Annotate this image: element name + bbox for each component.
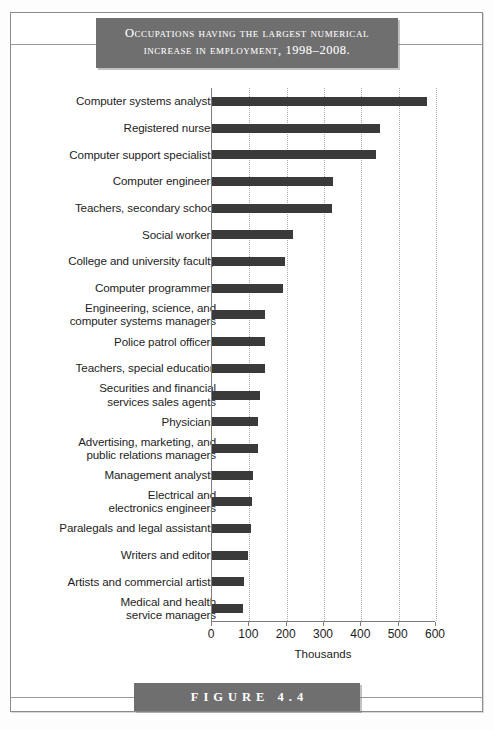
category-label-line: Computer engineers [20, 174, 216, 187]
bar [212, 284, 283, 293]
category-label-line: Advertising, marketing, and [20, 435, 216, 448]
category-label-line: Electrical and [20, 488, 216, 501]
x-axis-tick-label: 300 [313, 627, 333, 641]
category-label-line: College and university faculty [20, 254, 216, 267]
category-label: Teachers, secondary school [20, 201, 216, 214]
x-axis-tick-label: 500 [388, 627, 408, 641]
category-label: Electrical andelectronics engineers [20, 488, 216, 514]
category-label: Paralegals and legal assistants [20, 521, 216, 534]
x-axis-tick [248, 622, 249, 626]
x-axis-title: Thousands [211, 648, 435, 660]
gridline [399, 88, 400, 621]
category-label-line: Artists and commercial artists [20, 575, 216, 588]
category-label-line: Engineering, science, and [20, 301, 216, 314]
category-label: Registered nurses [20, 121, 216, 134]
bar [212, 417, 258, 426]
x-axis-tick-label: 100 [238, 627, 258, 641]
category-label: Advertising, marketing, andpublic relati… [20, 435, 216, 461]
category-label-line: computer systems managers [20, 314, 216, 327]
bar [212, 577, 244, 586]
category-label-line: Social workers [20, 228, 216, 241]
category-label-line: Physicians [20, 415, 216, 428]
category-label: Computer programmers [20, 281, 216, 294]
category-label: Medical and healthservice managers [20, 595, 216, 621]
category-label-line: Computer support specialists [20, 148, 216, 161]
category-label-line: service managers [20, 608, 216, 621]
bar [212, 204, 332, 213]
x-axis-tick [323, 622, 324, 626]
category-label: Management analysts [20, 468, 216, 481]
category-label-line: Teachers, special education [20, 361, 216, 374]
category-label: Writers and editors [20, 548, 216, 561]
x-axis-tick [286, 622, 287, 626]
category-label: Police patrol officers [20, 335, 216, 348]
category-label: Artists and commercial artists [20, 575, 216, 588]
category-label-line: Securities and financial [20, 381, 216, 394]
category-label-line: Registered nurses [20, 121, 216, 134]
x-axis-tick [360, 622, 361, 626]
bar [212, 551, 248, 560]
gridline [249, 88, 250, 621]
bar-chart: Computer systems analystsRegistered nurs… [0, 0, 473, 700]
bar [212, 310, 265, 319]
x-axis-tick-label: 200 [276, 627, 296, 641]
category-label: Computer support specialists [20, 148, 216, 161]
category-label-line: Management analysts [20, 468, 216, 481]
plot-area [211, 88, 435, 622]
category-label-line: Computer programmers [20, 281, 216, 294]
category-label: Engineering, science, andcomputer system… [20, 301, 216, 327]
figure-caption-plaque: FIGURE 4.4 [134, 683, 360, 711]
category-label-line: public relations managers [20, 448, 216, 461]
gridline [436, 88, 437, 621]
category-label-line: Teachers, secondary school [20, 201, 216, 214]
bar [212, 471, 253, 480]
category-label-line: Writers and editors [20, 548, 216, 561]
bar [212, 230, 293, 239]
bar [212, 257, 285, 266]
bar [212, 177, 333, 186]
bar [212, 150, 376, 159]
bar [212, 604, 243, 613]
bar [212, 391, 260, 400]
x-axis: 0100200300400500600 [211, 622, 435, 648]
category-label: Social workers [20, 228, 216, 241]
category-label-line: Computer systems analysts [20, 94, 216, 107]
category-label-line: electronics engineers [20, 501, 216, 514]
category-label: Securities and financialservices sales a… [20, 381, 216, 407]
bar [212, 524, 251, 533]
x-axis-tick-label: 0 [208, 627, 215, 641]
x-axis-tick [398, 622, 399, 626]
bar [212, 337, 265, 346]
gridline [361, 88, 362, 621]
category-label: College and university faculty [20, 254, 216, 267]
category-label-line: Police patrol officers [20, 335, 216, 348]
figure-caption-text: FIGURE 4.4 [186, 690, 308, 705]
category-label: Teachers, special education [20, 361, 216, 374]
bar [212, 364, 265, 373]
bar [212, 497, 252, 506]
category-axis-labels: Computer systems analystsRegistered nurs… [18, 88, 216, 622]
category-label-line: Paralegals and legal assistants [20, 521, 216, 534]
category-label: Computer engineers [20, 174, 216, 187]
category-label: Physicians [20, 415, 216, 428]
bar [212, 444, 258, 453]
x-axis-tick-label: 400 [350, 627, 370, 641]
x-axis-tick [211, 622, 212, 626]
gridline [287, 88, 288, 621]
category-label-line: Medical and health [20, 595, 216, 608]
x-axis-tick-label: 600 [425, 627, 445, 641]
x-axis-tick [435, 622, 436, 626]
category-label: Computer systems analysts [20, 94, 216, 107]
bar [212, 97, 427, 106]
category-label-line: services sales agents [20, 395, 216, 408]
bar [212, 124, 380, 133]
gridline [324, 88, 325, 621]
